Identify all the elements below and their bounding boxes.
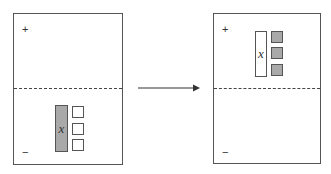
mat-before: + x − <box>13 13 123 165</box>
unit-tile <box>271 64 283 76</box>
dashed-divider <box>14 88 122 89</box>
dashed-divider <box>214 88 320 89</box>
unit-tile <box>72 139 84 151</box>
minus-label: − <box>222 147 228 158</box>
x-tile-label: x <box>258 46 264 62</box>
arrow-right-icon <box>136 82 202 94</box>
unit-tile <box>72 106 84 118</box>
x-tile: x <box>255 31 267 77</box>
plus-label: + <box>22 24 28 35</box>
mat-after: + x − <box>213 13 321 164</box>
minus-label: − <box>22 147 28 158</box>
unit-tile <box>271 47 283 59</box>
x-tile: x <box>55 105 68 152</box>
unit-tile <box>72 123 84 135</box>
plus-label: + <box>222 24 228 35</box>
x-tile-label: x <box>59 121 65 137</box>
unit-tile <box>271 31 283 43</box>
